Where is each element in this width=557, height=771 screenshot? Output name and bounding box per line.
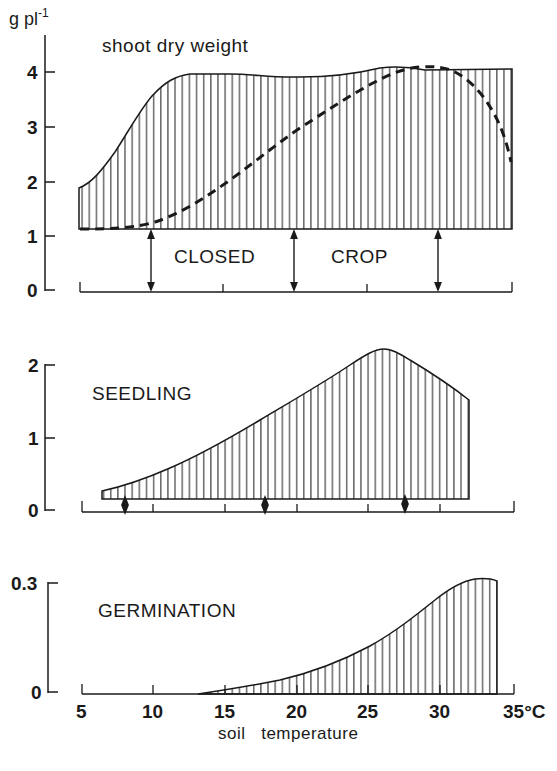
stage-label-closed: CLOSED — [174, 246, 255, 267]
svg-text:35°C: 35°C — [503, 701, 546, 722]
stage-label-crop: CROP — [331, 246, 388, 267]
panel-title-shoot: shoot dry weight — [102, 35, 249, 56]
seedling-hatched-area — [102, 349, 469, 499]
svg-text:2: 2 — [28, 355, 39, 376]
svg-text:0: 0 — [31, 682, 42, 703]
germination-hatched-area — [198, 579, 497, 694]
panel-title-germination: GERMINATION — [98, 600, 236, 621]
y-axis-seedling — [45, 364, 55, 511]
svg-text:4: 4 — [27, 62, 38, 83]
figure: g pl-1 shoot dry weight 0 1 2 3 4 — [0, 0, 557, 771]
svg-text:30: 30 — [429, 701, 450, 722]
svg-text:5: 5 — [76, 701, 87, 722]
svg-text:1: 1 — [28, 428, 39, 449]
svg-text:0: 0 — [28, 500, 39, 521]
panel-title-seedling: SEEDLING — [92, 383, 192, 404]
svg-text:15: 15 — [214, 701, 236, 722]
svg-text:3: 3 — [27, 117, 38, 138]
x-axis-shoot — [80, 282, 512, 292]
x-axis-title: soil temperature — [218, 724, 358, 743]
y-unit-label: g pl-1 — [9, 6, 49, 29]
panel-shoot: g pl-1 shoot dry weight 0 1 2 3 4 — [9, 6, 512, 301]
svg-text:1: 1 — [27, 226, 38, 247]
seedling-arrows — [125, 499, 405, 510]
y-axis-shoot — [45, 35, 55, 291]
y-ticks-seedling: 2 1 0 — [28, 355, 39, 521]
y-ticks-shoot: 0 1 2 3 4 — [27, 62, 38, 301]
x-tick-labels: 5 10 15 20 25 30 35°C — [76, 701, 546, 722]
x-axis-seedling — [82, 501, 514, 512]
y-ticks-germination: 0.3 0 — [11, 573, 42, 703]
svg-text:0.3: 0.3 — [11, 573, 37, 594]
svg-text:20: 20 — [286, 701, 307, 722]
y-axis-germination — [48, 582, 58, 693]
svg-text:2: 2 — [27, 172, 38, 193]
svg-text:25: 25 — [357, 701, 379, 722]
shoot-hatched-area — [79, 67, 512, 229]
panel-seedling: SEEDLING 2 1 0 — [28, 349, 514, 521]
svg-text:0: 0 — [27, 280, 38, 301]
svg-text:10: 10 — [142, 701, 163, 722]
panel-germination: GERMINATION 0.3 0 5 10 15 20 25 — [11, 573, 546, 743]
